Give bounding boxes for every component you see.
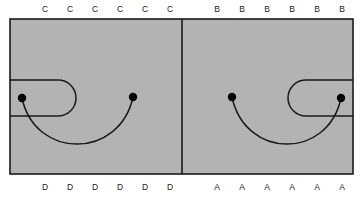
panel-layer <box>10 19 353 174</box>
left-panel-top-label-5: C <box>142 4 148 14</box>
right-panel-bottom-label-6: A <box>339 182 345 192</box>
left-panel-top-label-1: C <box>42 4 48 14</box>
left-panel-right-dot <box>129 93 137 101</box>
right-panel-fill <box>182 19 353 174</box>
left-panel-bottom-label-5: D <box>142 182 148 192</box>
left-panel-bottom-label-3: D <box>92 182 98 192</box>
left-panel-fill <box>10 19 182 174</box>
right-panel-bottom-label-5: A <box>314 182 320 192</box>
right-panel-bottom-label-1: A <box>214 182 220 192</box>
left-panel-top-label-3: C <box>92 4 98 14</box>
right-panel-top-label-2: B <box>239 4 245 14</box>
diagram-figure: CCCCCCDDDDDDBBBBBBAAAAAA <box>0 0 363 198</box>
right-panel-bottom-label-3: A <box>264 182 270 192</box>
right-panel-top-label-6: B <box>339 4 345 14</box>
right-panel-right-dot <box>337 94 345 102</box>
right-panel-top-label-4: B <box>289 4 295 14</box>
right-panel-left-dot <box>228 93 236 101</box>
left-panel-top-label-4: C <box>117 4 123 14</box>
left-panel-bottom-label-1: D <box>42 182 48 192</box>
right-panel-top-label-5: B <box>314 4 320 14</box>
right-panel-bottom-label-2: A <box>239 182 245 192</box>
left-panel-top-label-2: C <box>67 4 73 14</box>
diagram-canvas: CCCCCCDDDDDDBBBBBBAAAAAA <box>0 0 363 198</box>
left-panel-bottom-label-2: D <box>67 182 73 192</box>
left-panel-bottom-label-4: D <box>117 182 123 192</box>
right-panel-bottom-label-4: A <box>289 182 295 192</box>
right-panel-top-label-1: B <box>214 4 220 14</box>
left-panel-top-label-6: C <box>167 4 173 14</box>
left-panel-bottom-label-6: D <box>167 182 173 192</box>
left-panel-left-dot <box>18 94 26 102</box>
right-panel-top-label-3: B <box>264 4 270 14</box>
